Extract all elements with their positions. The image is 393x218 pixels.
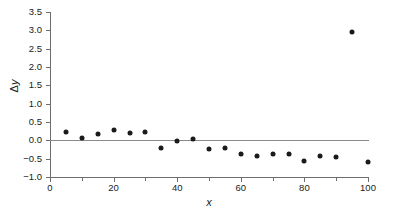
data-point bbox=[286, 152, 291, 157]
y-axis-tick-label: 1.0 bbox=[0, 99, 42, 109]
y-axis-tick-label: −1.0 bbox=[0, 172, 42, 182]
data-point bbox=[318, 154, 323, 159]
x-axis-tick-label: 20 bbox=[108, 183, 119, 193]
data-point bbox=[159, 146, 164, 151]
y-axis-tick-label: 3.0 bbox=[0, 25, 42, 35]
data-point bbox=[63, 130, 68, 135]
data-point bbox=[111, 128, 116, 133]
data-point bbox=[334, 155, 339, 160]
data-point bbox=[350, 30, 355, 35]
y-axis-tick-label: 1.5 bbox=[0, 80, 42, 90]
y-axis-tick-label: 3.5 bbox=[0, 7, 42, 17]
y-axis-tick-label: −0.5 bbox=[0, 154, 42, 164]
data-point bbox=[79, 135, 84, 140]
y-axis-tick-label: 0.0 bbox=[0, 135, 42, 145]
plot-area bbox=[50, 12, 368, 177]
data-point bbox=[366, 159, 371, 164]
x-axis-tick-label: 60 bbox=[236, 183, 247, 193]
x-axis-tick-label: 40 bbox=[172, 183, 183, 193]
data-point bbox=[127, 130, 132, 135]
data-point bbox=[143, 130, 148, 135]
data-point bbox=[207, 147, 212, 152]
x-axis-minor-tick bbox=[336, 178, 337, 181]
scatter-chart-figure: −1.0−0.50.00.51.01.52.02.53.03.502040608… bbox=[0, 0, 393, 218]
y-axis-tick-label: 2.5 bbox=[0, 44, 42, 54]
x-axis-title: x bbox=[206, 196, 212, 208]
x-axis-minor-tick bbox=[209, 178, 210, 181]
y-axis-title: Δy bbox=[8, 80, 20, 93]
x-axis-tick-label: 80 bbox=[299, 183, 310, 193]
data-point bbox=[270, 151, 275, 156]
x-axis-minor-tick bbox=[82, 178, 83, 181]
x-axis-minor-tick bbox=[145, 178, 146, 181]
data-point bbox=[238, 151, 243, 156]
data-point bbox=[222, 145, 227, 150]
x-axis-tick-label: 100 bbox=[360, 183, 376, 193]
y-axis-tick-label: 2.0 bbox=[0, 62, 42, 72]
data-point bbox=[191, 136, 196, 141]
data-point bbox=[95, 131, 100, 136]
data-point bbox=[175, 139, 180, 144]
y-axis-tick-label: 0.5 bbox=[0, 117, 42, 127]
x-axis-tick-label: 0 bbox=[47, 183, 52, 193]
data-point bbox=[302, 159, 307, 164]
data-point bbox=[254, 153, 259, 158]
x-axis-minor-tick bbox=[273, 178, 274, 181]
